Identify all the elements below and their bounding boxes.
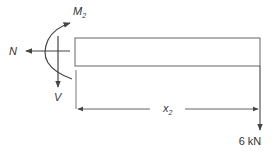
normal-force-label: N	[9, 45, 17, 57]
length-label: x2	[162, 102, 173, 116]
beam-segment	[75, 38, 260, 66]
moment-label: M2	[73, 5, 86, 19]
free-body-diagram: 6 kN x2 N V M2	[0, 0, 278, 159]
shear-force-label: V	[54, 91, 63, 103]
load-label: 6 kN	[239, 135, 262, 147]
